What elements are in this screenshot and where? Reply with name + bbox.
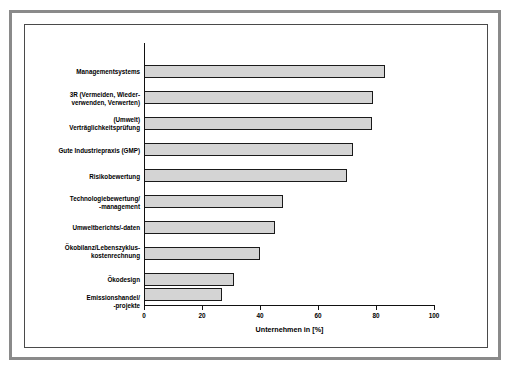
x-tick-mark-3 bbox=[318, 306, 319, 310]
x-tick-mark-4 bbox=[376, 306, 377, 310]
x-tick-mark-2 bbox=[260, 306, 261, 310]
category-label-4: Risikobewertung bbox=[27, 173, 140, 181]
chart-plot-wrapper: Managementsystems 3R (Vermeiden, Wieder-… bbox=[25, 25, 489, 349]
category-label-5: Technologiebewertung/ -management bbox=[27, 195, 140, 210]
category-label-0: Managementsystems bbox=[27, 68, 140, 76]
bar-1 bbox=[144, 91, 373, 104]
bar-3 bbox=[144, 143, 353, 156]
bar-9 bbox=[144, 288, 222, 301]
category-label-8: Ökodesign bbox=[27, 276, 140, 284]
x-tick-label-0: 0 bbox=[132, 312, 156, 319]
x-tick-label-1: 20 bbox=[190, 312, 214, 319]
x-tick-label-5: 100 bbox=[422, 312, 446, 319]
y-axis-line bbox=[144, 43, 145, 306]
x-axis-title: Unternehmen in [%] bbox=[144, 325, 435, 334]
x-tick-mark-0 bbox=[144, 306, 145, 310]
bar-6 bbox=[144, 221, 275, 234]
bar-4 bbox=[144, 169, 347, 182]
x-tick-label-2: 40 bbox=[248, 312, 272, 319]
bar-5 bbox=[144, 195, 283, 208]
bars-container bbox=[144, 43, 434, 305]
category-label-9: Emissionshandel/ -projekte bbox=[27, 294, 140, 309]
x-axis-line bbox=[144, 305, 435, 306]
category-label-1: 3R (Vermeiden, Wieder- verwenden, Verwer… bbox=[27, 91, 140, 106]
x-tick-label-3: 60 bbox=[306, 312, 330, 319]
chart-outer-frame: Managementsystems 3R (Vermeiden, Wieder-… bbox=[9, 10, 501, 360]
bar-7 bbox=[144, 247, 260, 260]
category-label-3: Gute Industriepraxis (GMP) bbox=[27, 147, 140, 155]
x-tick-mark-1 bbox=[202, 306, 203, 310]
category-label-6: Umweltberichts/-daten bbox=[27, 224, 140, 232]
bar-8 bbox=[144, 273, 234, 286]
category-label-7: Ökobilanz/Lebenszyklus- kostenrechnung bbox=[27, 244, 140, 259]
bar-2 bbox=[144, 117, 372, 130]
x-tick-label-4: 80 bbox=[364, 312, 388, 319]
category-label-2: (Umwelt) Verträglichkeitsprüfung bbox=[27, 116, 140, 131]
x-tick-mark-5 bbox=[434, 306, 435, 310]
bar-0 bbox=[144, 65, 385, 78]
chart-inner-frame: Managementsystems 3R (Vermeiden, Wieder-… bbox=[24, 24, 488, 348]
